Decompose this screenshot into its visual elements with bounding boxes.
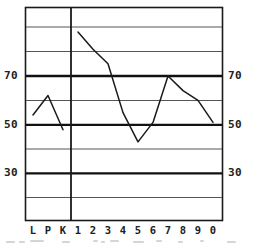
y-axis-label-left-50: 50 xyxy=(4,119,18,130)
y-axis-label-left-70: 70 xyxy=(4,70,18,81)
x-axis-tick-2: 2 xyxy=(87,225,99,236)
x-axis-tick-8: 8 xyxy=(177,225,189,236)
y-axis-label-right-30: 30 xyxy=(228,167,242,178)
x-axis-tick-9: 9 xyxy=(192,225,204,236)
scan-artifact-row xyxy=(0,239,256,246)
x-axis-tick-P: P xyxy=(42,225,54,236)
x-axis-tick-1: 1 xyxy=(72,225,84,236)
gridlines-bold xyxy=(26,76,222,173)
x-axis-tick-6: 6 xyxy=(147,225,159,236)
y-axis-label-right-50: 50 xyxy=(228,119,242,130)
x-axis-tick-5: 5 xyxy=(132,225,144,236)
line-chart: 70 50 30 70 50 30 L P K 1 2 3 4 5 6 7 8 … xyxy=(0,0,256,246)
chart-plot-area xyxy=(0,0,256,246)
x-axis-tick-7: 7 xyxy=(162,225,174,236)
y-axis-label-right-70: 70 xyxy=(228,70,242,81)
x-axis-tick-0: 0 xyxy=(207,225,219,236)
x-axis-tick-4: 4 xyxy=(117,225,129,236)
x-axis-tick-L: L xyxy=(27,225,39,236)
x-axis-tick-K: K xyxy=(57,225,69,236)
y-axis-label-left-30: 30 xyxy=(4,167,18,178)
x-axis-tick-3: 3 xyxy=(102,225,114,236)
